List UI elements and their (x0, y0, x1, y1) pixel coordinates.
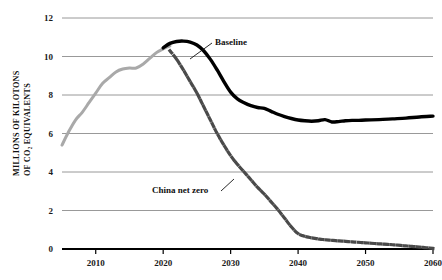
x-tick-label: 2040 (289, 258, 308, 268)
x-axis (62, 249, 433, 254)
y-tick-label: 10 (44, 52, 54, 62)
y-tick-label: 6 (49, 129, 54, 139)
data-series (62, 41, 433, 248)
x-tick-label: 2010 (87, 258, 106, 268)
series-line-historical (62, 46, 170, 145)
x-tick-label: 2030 (222, 258, 241, 268)
series-annotations: BaselineChina net zero (152, 37, 247, 195)
x-tick-label: 2020 (154, 258, 173, 268)
y-tick-label: 12 (44, 13, 54, 23)
y-tick-label: 2 (49, 206, 54, 216)
y-tick-label: 8 (49, 90, 54, 100)
annotation-label: China net zero (152, 185, 209, 195)
chart-container: 024681012 201020202030204020502060 Basel… (0, 0, 442, 280)
y-axis-title-line-2: OF CO₂ EQUIVALENTS (23, 83, 32, 176)
x-axis-tick-labels: 201020202030204020502060 (87, 258, 442, 268)
annotation-label: Baseline (215, 37, 247, 47)
y-axis-tick-labels: 024681012 (44, 13, 54, 254)
y-axis-title: MILLIONS OF KILOTONS OF CO₂ EQUIVALENTS (12, 70, 32, 176)
y-tick-label: 4 (49, 167, 54, 177)
gridlines (62, 18, 433, 211)
series-line-china-net-zero (170, 51, 433, 249)
y-axis-title-line-1: MILLIONS OF KILOTONS (12, 70, 21, 176)
y-tick-label: 0 (49, 244, 54, 254)
x-tick-label: 2060 (424, 258, 442, 268)
emissions-line-chart: 024681012 201020202030204020502060 Basel… (0, 0, 442, 280)
x-tick-label: 2050 (357, 258, 376, 268)
annotation-leader-line (221, 179, 234, 191)
